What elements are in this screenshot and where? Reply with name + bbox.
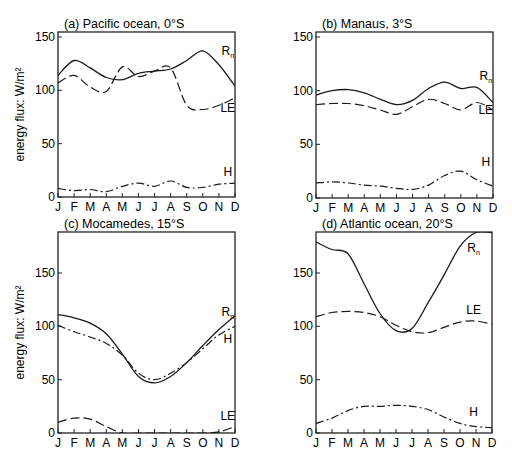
x-tick-label: A (424, 436, 432, 450)
series-label: Rn (221, 44, 234, 59)
x-tick-label: M (375, 436, 385, 450)
chart-panel-c: (c) Mocamedes, 15°S050100150JFMAMJJASOND… (13, 217, 240, 450)
x-tick-label: S (441, 201, 449, 215)
series-label: LE (466, 303, 481, 317)
plot-frame (58, 232, 235, 433)
x-tick-label: M (375, 201, 385, 215)
panel-title: (d) Atlantic ocean, 20°S (322, 217, 453, 231)
x-tick-label: A (167, 436, 175, 450)
x-tick-label: J (410, 201, 416, 215)
series-label: H (469, 405, 478, 419)
series-label: H (481, 155, 490, 169)
y-tick-label: 50 (42, 137, 56, 151)
series-label: LE (478, 103, 493, 117)
series-line-rn (316, 82, 493, 105)
y-axis-label: energy flux: W/m² (13, 285, 27, 379)
x-tick-label: O (455, 436, 464, 450)
x-tick-label: S (183, 200, 191, 214)
x-tick-label: S (183, 436, 191, 450)
y-tick-label: 100 (293, 84, 313, 98)
series-line-h (58, 325, 235, 379)
x-tick-label: J (313, 201, 319, 215)
x-tick-label: F (70, 200, 77, 214)
panel-title: (c) Mocamedes, 15°S (64, 217, 184, 231)
y-axis-label: energy flux: W/m² (13, 67, 27, 161)
x-tick-label: A (360, 436, 368, 450)
series-label: Rn (479, 69, 492, 84)
x-tick-label: O (456, 201, 465, 215)
chart-panel-b: (b) Manaus, 3°S050100150JFMAMJJASONDRnLE… (293, 17, 498, 215)
series-label: LE (220, 409, 235, 423)
x-tick-label: J (409, 436, 415, 450)
series-line-h (316, 171, 493, 189)
x-tick-label: F (328, 201, 335, 215)
series-label: LE (220, 101, 235, 115)
y-tick-label: 150 (293, 266, 313, 280)
x-tick-label: J (313, 436, 319, 450)
x-tick-label: O (198, 200, 207, 214)
x-tick-label: A (102, 436, 110, 450)
x-tick-label: F (70, 436, 77, 450)
y-tick-label: 150 (35, 266, 55, 280)
series-line-rn (316, 231, 492, 332)
x-tick-label: M (117, 200, 127, 214)
x-tick-label: J (135, 436, 141, 450)
x-tick-label: M (85, 200, 95, 214)
series-line-rn (58, 315, 235, 383)
series-label: Rn (221, 305, 234, 320)
x-tick-label: D (231, 436, 240, 450)
x-tick-label: M (343, 201, 353, 215)
x-tick-label: S (440, 436, 448, 450)
x-tick-label: N (215, 200, 224, 214)
panel-title: (b) Manaus, 3°S (322, 17, 412, 31)
y-tick-label: 150 (35, 30, 55, 44)
x-tick-label: O (198, 436, 207, 450)
y-tick-label: 50 (42, 373, 56, 387)
x-tick-label: D (489, 201, 498, 215)
figure-four-panel-energy-flux: (a) Pacific ocean, 0°S050100150JFMAMJJAS… (0, 0, 512, 465)
chart-panel-d: (d) Atlantic ocean, 20°S050100150JFMAMJJ… (293, 217, 497, 450)
series-line-le (58, 418, 235, 434)
x-tick-label: J (55, 436, 61, 450)
panel-title: (a) Pacific ocean, 0°S (64, 17, 184, 31)
x-tick-label: N (473, 201, 482, 215)
y-tick-label: 50 (300, 137, 314, 151)
series-line-h (58, 181, 235, 192)
y-tick-label: 100 (35, 83, 55, 97)
y-tick-label: 150 (293, 30, 313, 44)
plot-frame (58, 32, 235, 197)
x-tick-label: M (343, 436, 353, 450)
x-tick-label: A (360, 201, 368, 215)
series-line-le (316, 99, 493, 114)
series-line-rn (58, 51, 235, 86)
x-tick-label: A (102, 200, 110, 214)
x-tick-label: J (55, 200, 61, 214)
x-tick-label: N (215, 436, 224, 450)
series-label: H (223, 165, 232, 179)
x-tick-label: J (393, 201, 399, 215)
x-tick-label: D (231, 200, 240, 214)
x-tick-label: D (488, 436, 497, 450)
x-tick-label: J (152, 436, 158, 450)
x-tick-label: F (328, 436, 335, 450)
x-tick-label: M (117, 436, 127, 450)
series-label: Rn (467, 241, 480, 256)
y-tick-label: 50 (300, 373, 314, 387)
y-tick-label: 100 (35, 319, 55, 333)
x-tick-label: J (393, 436, 399, 450)
series-label: H (223, 332, 232, 346)
x-tick-label: J (152, 200, 158, 214)
x-tick-label: A (425, 201, 433, 215)
y-tick-label: 100 (293, 319, 313, 333)
x-tick-label: A (167, 200, 175, 214)
chart-panel-a: (a) Pacific ocean, 0°S050100150JFMAMJJAS… (13, 17, 240, 214)
x-tick-label: N (472, 436, 481, 450)
series-line-h (316, 405, 492, 427)
x-tick-label: J (135, 200, 141, 214)
x-tick-label: M (85, 436, 95, 450)
